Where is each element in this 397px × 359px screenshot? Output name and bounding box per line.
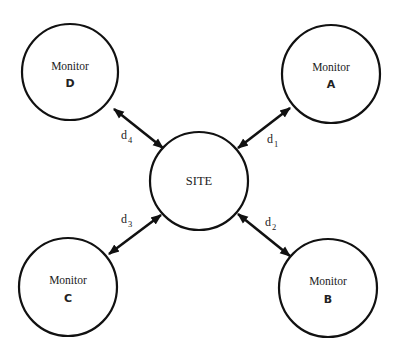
monitor-c-node: Monitor C [19, 238, 117, 336]
distance-d2-subscript: 2 [272, 222, 276, 232]
monitor-c-title: Monitor [49, 274, 87, 286]
monitor-d-circle [22, 24, 118, 120]
arrow-site-monitor-a [238, 108, 290, 148]
site-node: SITE [150, 132, 248, 230]
distance-d1-base: d [267, 132, 273, 146]
monitor-b-title: Monitor [309, 275, 347, 287]
monitor-a-node: Monitor A [282, 25, 380, 123]
monitor-d-node: Monitor D [22, 24, 118, 120]
monitor-c-letter: C [64, 292, 72, 305]
monitor-site-diagram: Monitor D Monitor A Monitor C Monitor B … [0, 0, 397, 359]
monitor-b-letter: B [324, 293, 332, 306]
distance-d3-base: d [121, 212, 127, 226]
distance-d3-subscript: 3 [128, 219, 132, 229]
site-label: SITE [186, 174, 213, 188]
distance-d1-subscript: 1 [274, 139, 278, 149]
monitor-b-node: Monitor B [279, 239, 377, 337]
arrow-site-monitor-c [109, 215, 161, 254]
monitor-d-title: Monitor [51, 60, 89, 72]
monitor-d-letter: D [65, 77, 74, 90]
monitor-a-letter: A [327, 78, 336, 91]
distance-d2-base: d [265, 215, 271, 229]
arrow-site-monitor-b [238, 214, 290, 256]
distance-label-d3: d 3 [121, 212, 132, 229]
distance-label-d4: d 4 [121, 128, 133, 145]
distance-d4-subscript: 4 [128, 135, 133, 145]
monitor-a-title: Monitor [312, 61, 350, 73]
distance-d4-base: d [121, 128, 127, 142]
distance-label-d1: d 1 [267, 132, 278, 149]
distance-label-d2: d 2 [265, 215, 276, 232]
monitor-a-circle [282, 25, 380, 123]
monitor-b-circle [279, 239, 377, 337]
monitor-c-circle [19, 238, 117, 336]
